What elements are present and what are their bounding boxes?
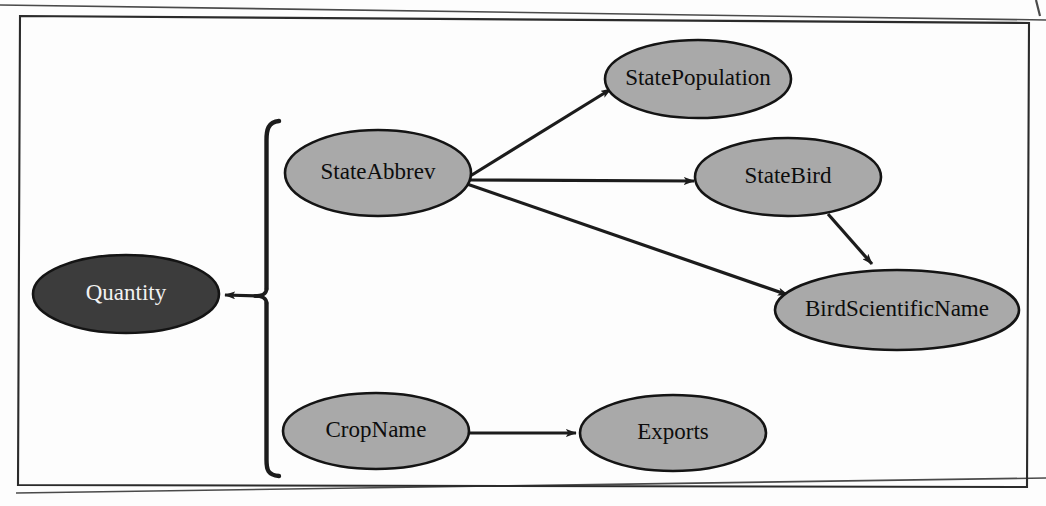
diagram-page: Quantity StateAbbrev StatePopulation Sta…: [0, 0, 1046, 506]
node-crop-name[interactable]: CropName: [283, 393, 469, 469]
functional-dependency-diagram: Quantity StateAbbrev StatePopulation Sta…: [0, 0, 1046, 506]
node-state-abbrev[interactable]: StateAbbrev: [285, 130, 471, 216]
node-bird-scientific-name-label: BirdScientificName: [805, 296, 989, 321]
node-state-population-label: StatePopulation: [625, 65, 771, 90]
node-bird-scientific-name[interactable]: BirdScientificName: [775, 270, 1019, 350]
edge-abbrev-to-population: [467, 89, 611, 178]
node-crop-name-label: CropName: [326, 417, 427, 442]
node-layer: Quantity StateAbbrev StatePopulation Sta…: [33, 40, 1019, 471]
composite-key-brace: [255, 121, 279, 476]
edge-bird-to-birdsciname: [828, 214, 872, 264]
node-quantity[interactable]: Quantity: [33, 255, 219, 333]
scan-edge-artifacts: [0, 0, 1046, 493]
node-exports[interactable]: Exports: [580, 395, 766, 471]
node-quantity-label: Quantity: [86, 280, 167, 305]
edge-brace-to-quantity: [225, 295, 258, 296]
node-state-abbrev-label: StateAbbrev: [321, 159, 436, 184]
figure-frame: [18, 16, 1029, 487]
node-state-bird-label: StateBird: [745, 163, 832, 188]
node-state-bird[interactable]: StateBird: [695, 138, 881, 216]
node-state-population[interactable]: StatePopulation: [605, 40, 791, 118]
edge-abbrev-to-bird: [470, 180, 694, 181]
node-exports-label: Exports: [637, 419, 709, 444]
